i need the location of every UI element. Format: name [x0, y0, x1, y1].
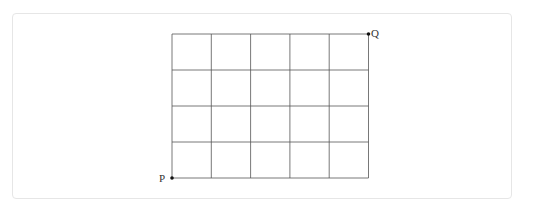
point-q-label: Q [371, 28, 379, 39]
point-p-dot [170, 176, 174, 180]
grid-diagram [0, 0, 533, 206]
point-p-label: P [159, 173, 165, 184]
point-q-dot [367, 32, 371, 36]
grid-lines [172, 34, 369, 178]
